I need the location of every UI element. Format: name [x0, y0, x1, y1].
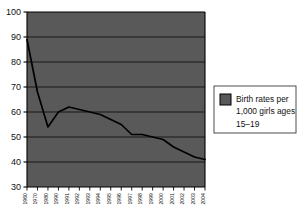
legend-label-line-3: 15–19: [236, 119, 260, 129]
y-tick-label-30: 30: [11, 182, 21, 192]
x-tick-label-1998: 1998: [137, 193, 143, 205]
x-tick-label-1980: 1980: [43, 193, 49, 205]
x-tick-label-1991: 1991: [64, 193, 70, 205]
y-tick-label-60: 60: [11, 107, 21, 117]
x-tick-label-1994: 1994: [95, 193, 101, 205]
y-tick-label-80: 80: [11, 57, 21, 67]
legend-label-line-2: 1,000 girls ages: [236, 106, 295, 116]
y-axis-ticks-group: 30405060708090100: [6, 7, 27, 192]
x-tick-label-1997: 1997: [127, 193, 133, 205]
x-tick-label-1996: 1996: [116, 193, 122, 205]
x-tick-label-1999: 1999: [148, 193, 154, 205]
x-tick-label-1992: 1992: [74, 193, 80, 205]
x-tick-label-2002: 2002: [179, 193, 185, 205]
y-tick-label-90: 90: [11, 32, 21, 42]
x-tick-label-1993: 1993: [85, 193, 91, 205]
line-chart: 30405060708090100 1960197019801990199119…: [0, 0, 300, 217]
x-tick-label-1995: 1995: [106, 193, 112, 205]
x-tick-label-2001: 2001: [169, 193, 175, 205]
legend: Birth rates per 1,000 girls ages 15–19: [214, 86, 296, 133]
x-tick-label-1970: 1970: [32, 193, 38, 205]
legend-swatch-birth-rates: [220, 94, 231, 105]
chart-figure: 30405060708090100 1960197019801990199119…: [0, 0, 300, 217]
x-tick-label-1990: 1990: [53, 193, 59, 205]
y-tick-label-50: 50: [11, 132, 21, 142]
plot-area-background: [27, 12, 205, 187]
y-tick-label-40: 40: [11, 157, 21, 167]
x-tick-label-2003: 2003: [190, 193, 196, 205]
y-tick-label-100: 100: [6, 7, 21, 17]
legend-label-line-1: Birth rates per: [236, 94, 289, 104]
x-tick-label-1960: 1960: [22, 193, 28, 205]
x-tick-label-2004: 2004: [200, 193, 206, 205]
y-tick-label-70: 70: [11, 82, 21, 92]
x-axis-ticks-group: 1960197019801990199119921993199419951996…: [22, 187, 206, 205]
x-tick-label-2000: 2000: [158, 193, 164, 205]
